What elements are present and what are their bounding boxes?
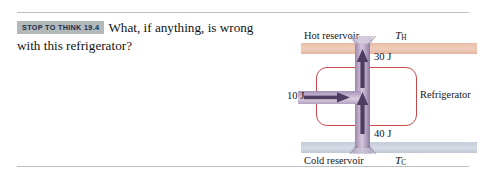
arrow-up-from-cold-icon [357, 92, 368, 134]
energy-from-cold-label: 40 J [374, 128, 391, 139]
arrow-up-to-hot-icon [357, 49, 368, 88]
energy-to-hot-label: 30 J [374, 51, 391, 62]
question-text-line1: What, if anything, is wrong [108, 20, 253, 35]
figure-page: STOP TO THINK 19.4 What, if anything, is… [0, 0, 483, 178]
arrow-overlay [288, 14, 483, 164]
divider-top [17, 12, 469, 13]
work-input-label: 10 J [287, 90, 304, 101]
stop-to-think-block: STOP TO THINK 19.4 What, if anything, is… [17, 18, 282, 54]
stop-to-think-badge: STOP TO THINK 19.4 [17, 21, 104, 33]
question-text-line2: with this refrigerator? [17, 37, 282, 54]
refrigerator-diagram: Hot reservoir Cold reservoir TH TC Refri… [288, 14, 483, 164]
arrow-right-work-icon [304, 92, 350, 102]
